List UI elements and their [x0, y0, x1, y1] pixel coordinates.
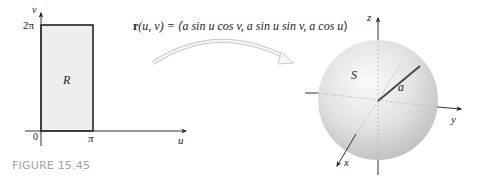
formula-body: a sin u cos v, a sin u sin v, a cos u [182, 19, 343, 33]
u-axis-label: u [178, 135, 184, 146]
formula-close: ⟩ [343, 19, 348, 33]
mapping-arrow [153, 41, 294, 64]
x-axis-label: x [344, 157, 349, 168]
tick-origin: 0 [33, 132, 38, 142]
sphere-plot [305, 18, 461, 175]
region-r-label: R [63, 74, 70, 86]
v-axis-label: v [32, 5, 36, 15]
figure-caption: FIGURE 15.45 [12, 159, 90, 172]
parametrization-formula: r(u, v) = ⟨a sin u cos v, a sin u sin v,… [133, 19, 348, 34]
radius-a-label: a [398, 81, 404, 93]
z-axis-label: z [367, 12, 371, 23]
y-axis [437, 107, 461, 109]
tick-pi: π [88, 133, 94, 144]
tick-2pi: 2π [23, 20, 34, 31]
surface-s-label: S [351, 69, 357, 81]
parametric-sphere-figure: v 2π R 0 π u r(u, v) = ⟨a sin u cos v, a… [0, 0, 477, 183]
formula-args: (u, v) = ⟨ [138, 19, 182, 33]
y-axis-label: y [451, 114, 456, 125]
